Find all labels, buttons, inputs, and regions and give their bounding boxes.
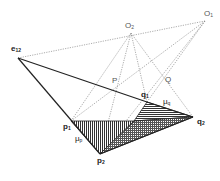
diagram-canvas — [0, 0, 220, 181]
label-e12: e12 — [11, 45, 21, 53]
label-Q: Q — [165, 76, 171, 84]
label-q2: q2 — [197, 118, 205, 126]
label-P: P — [112, 77, 117, 85]
label-p2: p2 — [97, 157, 105, 165]
label-O1: O1 — [204, 10, 213, 18]
label-O2: O2 — [125, 22, 134, 30]
label-p1: p1 — [63, 123, 71, 131]
label-q1: q1 — [141, 91, 149, 99]
label-mu-p: μp — [75, 135, 82, 143]
label-mu-q: μq — [163, 98, 170, 106]
